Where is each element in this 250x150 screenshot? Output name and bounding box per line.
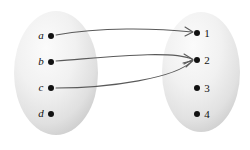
diagram-canvas: a b c d 1 2 3 4 [0,0,250,150]
domain-node-dot-b [48,59,54,65]
domain-node-label-a: a [38,29,44,41]
codomain-node-dot-3 [194,85,200,91]
domain-node-dot-d [48,111,54,117]
codomain-node-label-3: 3 [204,82,210,94]
domain-node-dot-a [48,33,54,39]
domain-node-label-c: c [39,81,44,93]
codomain-node-dot-1 [194,30,200,36]
codomain-node-label-2: 2 [204,54,210,66]
codomain-node-dot-4 [194,111,200,117]
codomain-node-dot-2 [194,57,200,63]
function-mapping-diagram: a b c d 1 2 3 4 [0,0,250,150]
domain-node-label-b: b [38,55,44,67]
domain-node-dot-c [48,85,54,91]
codomain-node-label-4: 4 [204,108,210,120]
domain-node-label-d: d [38,107,44,119]
domain-ellipse [14,11,98,135]
codomain-node-label-1: 1 [204,27,210,39]
